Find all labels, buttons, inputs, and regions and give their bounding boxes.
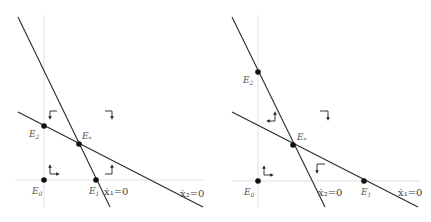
- left-flow-arrow-lower-left-icon: [50, 166, 58, 174]
- right-label-Estar: E*: [296, 132, 307, 143]
- right-nullcline-steep: [232, 17, 325, 207]
- left-phase-plane: E2 E* E0 E1 ẋ₁=0 ẋ₂=0: [15, 15, 205, 208]
- left-shallow-equation: ẋ₂=0: [180, 188, 204, 199]
- right-label-E1: E1: [360, 187, 371, 198]
- phase-diagrams: E2 E* E0 E1 ẋ₁=0 ẋ₂=0: [0, 0, 431, 222]
- right-flow-arrow-upper-right-icon: [320, 111, 328, 119]
- right-point-Estar: [290, 142, 296, 148]
- right-label-E2: E2: [242, 75, 254, 86]
- left-label-E0: E0: [31, 186, 43, 197]
- left-label-E2: E2: [28, 129, 40, 140]
- left-flow-arrow-upper-right-icon: [105, 111, 112, 118]
- left-label-Estar: E*: [81, 131, 92, 142]
- right-flow-arrow-lower-middle-icon: [317, 164, 325, 172]
- right-phase-plane: E2 E* E0 E1 ẋ₂=0 ẋ₁=0: [232, 15, 422, 208]
- right-flow-arrow-lower-left-icon: [264, 167, 272, 175]
- right-point-E1: [361, 178, 367, 184]
- right-shallow-equation: ẋ₁=0: [398, 187, 422, 198]
- right-steep-equation: ẋ₂=0: [318, 187, 342, 198]
- left-point-Estar: [76, 141, 82, 147]
- left-flow-arrow-upper-left-icon: [50, 111, 57, 118]
- right-label-E0: E0: [243, 187, 255, 198]
- left-point-E1: [93, 177, 99, 183]
- right-flow-arrow-middle-left-icon: [268, 113, 275, 121]
- left-point-E2: [41, 123, 47, 129]
- left-point-E0: [41, 177, 47, 183]
- left-flow-arrow-lower-middle-icon: [105, 166, 112, 174]
- right-point-E0: [255, 178, 261, 184]
- left-label-E1: E1: [88, 186, 99, 197]
- right-point-E2: [255, 69, 261, 75]
- left-steep-equation: ẋ₁=0: [104, 186, 128, 197]
